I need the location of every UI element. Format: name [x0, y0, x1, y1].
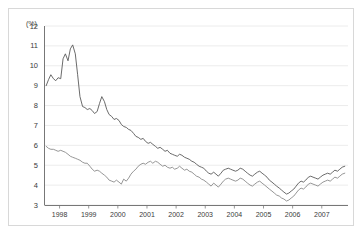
series-line-upper-rate	[46, 45, 345, 194]
chart-figure: (%) 3456789101112 1998199920002001200220…	[0, 0, 364, 235]
series-line-lower-rate	[46, 146, 345, 201]
gridlines	[45, 26, 348, 205]
plot-area	[0, 0, 364, 235]
data-series-layer	[46, 45, 345, 201]
